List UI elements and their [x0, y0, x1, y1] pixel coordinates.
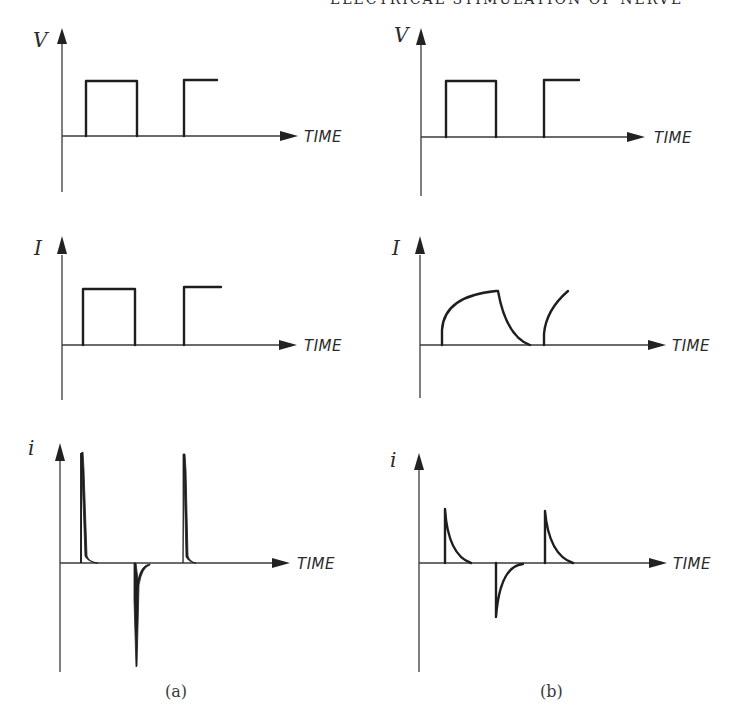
y-axis-arrow-icon: [415, 236, 425, 254]
voltage-pulse-next: [184, 80, 217, 136]
voltage-pulse: [446, 81, 496, 137]
panel-a-current: I TIME: [33, 236, 342, 400]
panel-b-voltage: V TIME: [394, 23, 692, 196]
onset-spike: [445, 509, 471, 563]
panel-b-capacitive-current: i TIME: [390, 448, 711, 672]
x-axis-label: TIME: [304, 128, 342, 146]
onset-spike-next: [545, 511, 573, 563]
y-axis-label: i: [390, 448, 396, 472]
panel-a-voltage: V TIME: [33, 28, 342, 192]
current-pulse-next: [184, 287, 221, 345]
caption-a: (a): [165, 682, 187, 701]
x-axis-label: TIME: [673, 555, 711, 573]
current-rise-decay: [442, 291, 530, 345]
x-axis-label: TIME: [304, 337, 342, 355]
offset-spike: [134, 563, 150, 667]
y-axis-arrow-icon: [57, 236, 67, 254]
y-axis-label: I: [33, 236, 43, 260]
x-axis-arrow-icon: [280, 131, 298, 141]
onset-spike: [81, 452, 98, 563]
x-axis-arrow-icon: [279, 340, 297, 350]
figure: V TIME I TIME i TIME V: [0, 0, 744, 728]
current-pulse: [83, 289, 135, 345]
voltage-pulse-next: [544, 80, 579, 137]
panel-b-current: I TIME: [391, 236, 710, 398]
y-axis-arrow-icon: [416, 28, 426, 45]
caption-b: (b): [540, 682, 563, 701]
x-axis-label: TIME: [654, 129, 692, 147]
y-axis-label: V: [33, 28, 50, 52]
y-axis-arrow-icon: [57, 28, 67, 44]
x-axis-arrow-icon: [272, 558, 290, 568]
y-axis-label: V: [394, 23, 411, 47]
voltage-pulse: [86, 81, 137, 136]
current-rise-next: [544, 291, 568, 345]
y-axis-arrow-icon: [414, 453, 424, 470]
x-axis-arrow-icon: [648, 340, 666, 350]
x-axis-arrow-icon: [649, 558, 667, 568]
y-axis-label: i: [28, 436, 34, 460]
offset-spike: [496, 563, 523, 617]
x-axis-label: TIME: [297, 555, 335, 573]
onset-spike-next: [183, 454, 196, 563]
y-axis-label: I: [391, 236, 401, 260]
panel-a-capacitive-current: i TIME: [28, 436, 335, 672]
x-axis-arrow-icon: [627, 132, 645, 142]
x-axis-label: TIME: [672, 337, 710, 355]
y-axis-arrow-icon: [55, 443, 65, 461]
